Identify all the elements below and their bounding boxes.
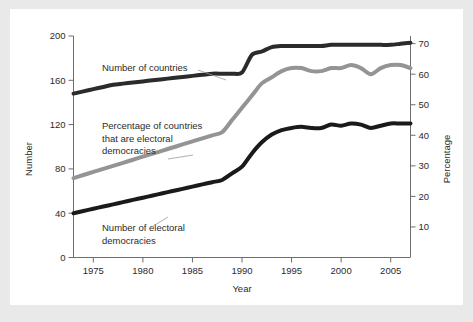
y-axis-right-tick-label: 50 <box>419 99 430 110</box>
annot-percentage-electoral-democracies-label: Percentage of countries <box>102 120 203 131</box>
x-axis-tick-label: 1975 <box>83 265 104 276</box>
y-axis-right-tick-label: 20 <box>419 191 430 202</box>
y-axis-left-tick-label: 0 <box>60 252 65 263</box>
x-axis-tick-label: 1980 <box>132 265 153 276</box>
figure-root: 04080120160200 10203040506070 1975198019… <box>0 0 473 322</box>
annot-number-electoral-democracies-label: Number of electoral <box>102 222 185 233</box>
y-axis-left-tick-label: 80 <box>55 163 66 174</box>
y-axis-left-title: Number <box>23 142 34 176</box>
x-axis-tick-label: 2005 <box>380 265 401 276</box>
y-axis-left-ticks: 04080120160200 <box>50 30 74 263</box>
annot-percentage-electoral-democracies-leader-line <box>168 155 193 159</box>
y-axis-right-tick-label: 60 <box>419 69 430 80</box>
y-axis-left-tick-label: 200 <box>50 30 66 41</box>
y-axis-right-ticks: 10203040506070 <box>411 38 430 232</box>
x-axis-title: Year <box>232 283 251 294</box>
x-axis-tick-label: 1995 <box>281 265 302 276</box>
annot-percentage-electoral-democracies-label: democracies <box>102 145 156 156</box>
chart-card: 04080120160200 10203040506070 1975198019… <box>10 9 463 305</box>
y-axis-right-title: Percentage <box>441 135 452 184</box>
y-axis-left-tick-label: 40 <box>55 208 66 219</box>
y-axis-right-tick-label: 30 <box>419 160 430 171</box>
y-axis-left-tick-label: 120 <box>50 119 66 130</box>
x-axis-tick-label: 1985 <box>182 265 203 276</box>
annot-number-of-countries-label: Number of countries <box>102 62 188 73</box>
x-axis-ticks: 1975198019851990199520002005 <box>83 258 401 276</box>
y-axis-left-tick-label: 160 <box>50 75 66 86</box>
annot-percentage-electoral-democracies-label: that are electoral <box>102 133 173 144</box>
x-axis-tick-label: 2000 <box>331 265 352 276</box>
annotation-group: Number of countriesPercentage of countri… <box>102 62 226 246</box>
line-chart: 04080120160200 10203040506070 1975198019… <box>10 9 463 305</box>
y-axis-right-tick-label: 40 <box>419 130 430 141</box>
annot-number-electoral-democracies-label: democracies <box>102 235 156 246</box>
y-axis-right-tick-label: 10 <box>419 221 430 232</box>
x-axis-tick-label: 1990 <box>231 265 252 276</box>
y-axis-right-tick-label: 70 <box>419 38 430 49</box>
